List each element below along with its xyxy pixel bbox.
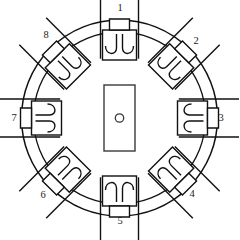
callout-label-5: 5 xyxy=(117,215,122,226)
center-hole xyxy=(115,114,123,122)
callout-label-8: 8 xyxy=(43,29,48,40)
clamp-assembly-2 xyxy=(147,18,219,90)
radial-clamp-diagram: 1 2 3 4 5 6 7 8 xyxy=(0,0,239,240)
clamp-assembly-6 xyxy=(20,146,92,218)
clamp-assembly-7 xyxy=(0,99,62,137)
figure-root: 1 2 3 4 5 6 7 8 xyxy=(0,0,239,240)
callout-label-7: 7 xyxy=(11,112,16,123)
clamp-assembly-3 xyxy=(178,99,240,137)
clamp-assembly-4 xyxy=(147,146,219,218)
callout-label-1: 1 xyxy=(117,2,122,13)
callout-label-2: 2 xyxy=(193,35,198,46)
clamp-assembly-8 xyxy=(20,18,92,90)
clamp-assembly-5 xyxy=(101,176,139,240)
callout-label-3: 3 xyxy=(218,112,223,123)
callout-label-6: 6 xyxy=(40,189,45,200)
callout-label-4: 4 xyxy=(189,188,195,199)
